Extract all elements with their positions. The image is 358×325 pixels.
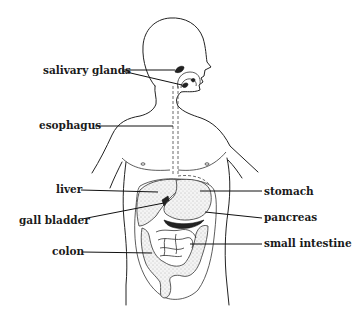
small-intestine-shape: [156, 229, 196, 256]
leader-pancreas: [205, 212, 262, 218]
head-outline: [143, 18, 258, 172]
label-colon: colon: [52, 245, 84, 257]
digestive-system-diagram: salivary glands esophagus liver gall bla…: [0, 0, 358, 325]
body-outline: [92, 18, 258, 305]
left-torso-outline: [123, 162, 127, 305]
label-esophagus: esophagus: [39, 119, 101, 131]
colon-shape: [141, 225, 208, 298]
label-small-intestine: small intestine: [264, 237, 352, 249]
leader-colon: [82, 252, 152, 253]
right-torso-outline: [225, 158, 230, 305]
label-gall-bladder: gall bladder: [19, 214, 90, 226]
left-nipple: [141, 163, 145, 165]
left-arm-outline: [110, 162, 122, 188]
right-nipple: [205, 163, 209, 165]
right-pec-line: [178, 152, 226, 170]
salivary-gland-mid: [191, 79, 195, 82]
right-arm-outline: [228, 160, 242, 178]
label-salivary-glands: salivary glands: [43, 64, 131, 76]
salivary-gland-lower: [182, 83, 188, 88]
salivary-gland-upper: [175, 66, 184, 72]
left-pec-line: [122, 158, 170, 170]
label-pancreas: pancreas: [264, 211, 317, 223]
pancreas-shape: [164, 220, 204, 229]
label-stomach: stomach: [264, 185, 314, 197]
label-liver: liver: [56, 183, 83, 195]
